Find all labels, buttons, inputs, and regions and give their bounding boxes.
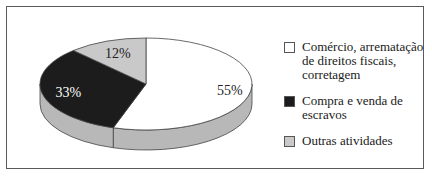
- legend-label-commerce: Comércio, arrematação de direitos fiscai…: [302, 39, 423, 82]
- legend-item-other: Outras atividades: [282, 134, 432, 148]
- pie-label-commerce: 55%: [217, 83, 243, 98]
- legend-item-commerce: Comércio, arrematação de direitos fiscai…: [282, 40, 432, 82]
- legend-item-slave-trade: Compra e venda de escravos: [282, 94, 432, 122]
- legend-swatch-other: [284, 136, 295, 147]
- pie-label-slave-trade: 33%: [56, 85, 82, 100]
- legend: Comércio, arrematação de direitos fiscai…: [282, 40, 432, 160]
- legend-label-other: Outras atividades: [302, 133, 393, 148]
- legend-swatch-slave-trade: [284, 96, 295, 107]
- pie-label-other: 12%: [105, 46, 131, 61]
- legend-label-slave-trade: Compra e venda de escravos: [302, 93, 403, 122]
- legend-swatch-commerce: [284, 42, 295, 53]
